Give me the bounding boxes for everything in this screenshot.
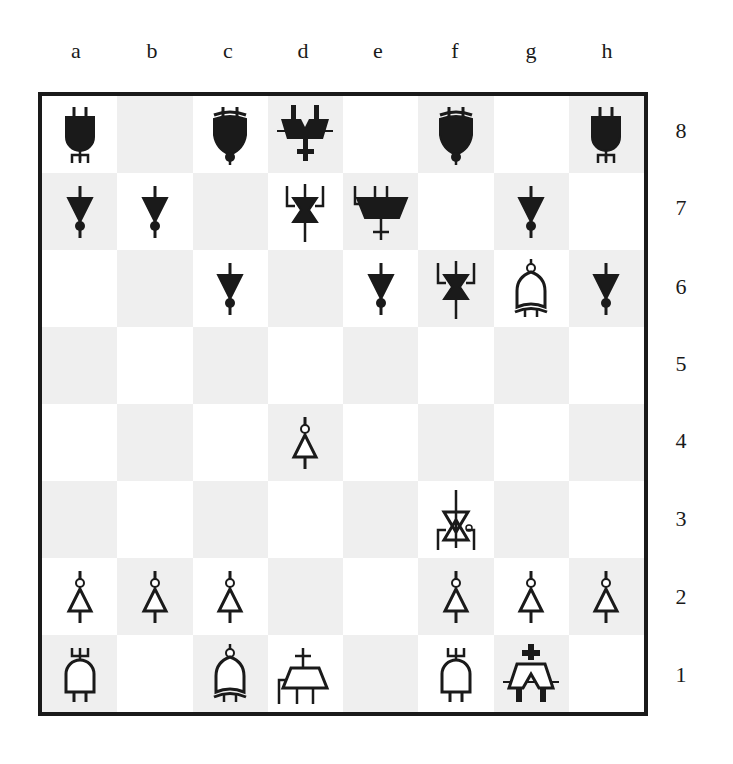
- square-h8[interactable]: [569, 96, 644, 173]
- square-f8[interactable]: [418, 96, 493, 173]
- square-h1[interactable]: [569, 635, 644, 712]
- file-label-f: f: [435, 36, 475, 66]
- black-pawn-icon[interactable]: [349, 257, 413, 321]
- square-f5[interactable]: [418, 327, 493, 404]
- square-b6[interactable]: [117, 250, 192, 327]
- square-b1[interactable]: [117, 635, 192, 712]
- square-b3[interactable]: [117, 481, 192, 558]
- square-e4[interactable]: [343, 404, 418, 481]
- square-e7[interactable]: [343, 173, 418, 250]
- white-rook-icon[interactable]: [48, 642, 112, 706]
- square-a6[interactable]: [42, 250, 117, 327]
- white-pawn-icon[interactable]: [48, 565, 112, 629]
- white-pawn-icon[interactable]: [499, 565, 563, 629]
- square-f4[interactable]: [418, 404, 493, 481]
- square-a3[interactable]: [42, 481, 117, 558]
- rank-label-7: 7: [668, 193, 694, 223]
- black-queen-icon[interactable]: [349, 180, 413, 244]
- square-f7[interactable]: [418, 173, 493, 250]
- white-bishop-icon[interactable]: [198, 642, 262, 706]
- white-knight-icon[interactable]: [424, 488, 488, 552]
- square-g4[interactable]: [494, 404, 569, 481]
- square-g3[interactable]: [494, 481, 569, 558]
- square-c3[interactable]: [193, 481, 268, 558]
- white-pawn-icon[interactable]: [198, 565, 262, 629]
- white-bishop-icon[interactable]: [499, 257, 563, 321]
- rank-label-3: 3: [668, 504, 694, 534]
- square-d6[interactable]: [268, 250, 343, 327]
- square-a2[interactable]: [42, 558, 117, 635]
- square-d4[interactable]: [268, 404, 343, 481]
- square-e6[interactable]: [343, 250, 418, 327]
- black-bishop-icon[interactable]: [198, 103, 262, 167]
- rank-label-2: 2: [668, 582, 694, 612]
- file-label-b: b: [132, 36, 172, 66]
- square-g7[interactable]: [494, 173, 569, 250]
- square-a5[interactable]: [42, 327, 117, 404]
- white-pawn-icon[interactable]: [123, 565, 187, 629]
- square-g2[interactable]: [494, 558, 569, 635]
- white-rook-icon[interactable]: [424, 642, 488, 706]
- white-king-icon[interactable]: [499, 642, 563, 706]
- square-c2[interactable]: [193, 558, 268, 635]
- square-d5[interactable]: [268, 327, 343, 404]
- square-b7[interactable]: [117, 173, 192, 250]
- square-h7[interactable]: [569, 173, 644, 250]
- square-e2[interactable]: [343, 558, 418, 635]
- file-label-h: h: [587, 36, 627, 66]
- square-c1[interactable]: [193, 635, 268, 712]
- square-d3[interactable]: [268, 481, 343, 558]
- square-c8[interactable]: [193, 96, 268, 173]
- black-rook-icon[interactable]: [48, 103, 112, 167]
- square-g5[interactable]: [494, 327, 569, 404]
- square-d2[interactable]: [268, 558, 343, 635]
- square-e8[interactable]: [343, 96, 418, 173]
- black-pawn-icon[interactable]: [123, 180, 187, 244]
- square-b2[interactable]: [117, 558, 192, 635]
- square-b8[interactable]: [117, 96, 192, 173]
- square-f3[interactable]: [418, 481, 493, 558]
- black-king-icon[interactable]: [273, 103, 337, 167]
- square-a8[interactable]: [42, 96, 117, 173]
- square-g6[interactable]: [494, 250, 569, 327]
- square-h6[interactable]: [569, 250, 644, 327]
- square-h5[interactable]: [569, 327, 644, 404]
- square-b4[interactable]: [117, 404, 192, 481]
- square-f2[interactable]: [418, 558, 493, 635]
- square-g8[interactable]: [494, 96, 569, 173]
- square-c7[interactable]: [193, 173, 268, 250]
- square-g1[interactable]: [494, 635, 569, 712]
- square-h2[interactable]: [569, 558, 644, 635]
- black-knight-icon[interactable]: [273, 180, 337, 244]
- square-a7[interactable]: [42, 173, 117, 250]
- square-a1[interactable]: [42, 635, 117, 712]
- black-knight-icon[interactable]: [424, 257, 488, 321]
- square-d7[interactable]: [268, 173, 343, 250]
- square-f6[interactable]: [418, 250, 493, 327]
- square-b5[interactable]: [117, 327, 192, 404]
- square-c4[interactable]: [193, 404, 268, 481]
- square-h3[interactable]: [569, 481, 644, 558]
- square-f1[interactable]: [418, 635, 493, 712]
- square-d8[interactable]: [268, 96, 343, 173]
- square-c6[interactable]: [193, 250, 268, 327]
- black-pawn-icon[interactable]: [574, 257, 638, 321]
- square-e1[interactable]: [343, 635, 418, 712]
- white-pawn-icon[interactable]: [574, 565, 638, 629]
- black-bishop-icon[interactable]: [424, 103, 488, 167]
- black-pawn-icon[interactable]: [499, 180, 563, 244]
- black-pawn-icon[interactable]: [198, 257, 262, 321]
- black-pawn-icon[interactable]: [48, 180, 112, 244]
- square-a4[interactable]: [42, 404, 117, 481]
- white-pawn-icon[interactable]: [424, 565, 488, 629]
- square-h4[interactable]: [569, 404, 644, 481]
- square-d1[interactable]: [268, 635, 343, 712]
- white-queen-icon[interactable]: [273, 642, 337, 706]
- file-label-a: a: [56, 36, 96, 66]
- white-pawn-icon[interactable]: [273, 411, 337, 475]
- square-e5[interactable]: [343, 327, 418, 404]
- rank-label-8: 8: [668, 116, 694, 146]
- square-c5[interactable]: [193, 327, 268, 404]
- black-rook-icon[interactable]: [574, 103, 638, 167]
- square-e3[interactable]: [343, 481, 418, 558]
